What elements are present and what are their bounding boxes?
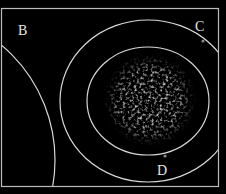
diagram-canvas <box>0 0 226 194</box>
label-c: C <box>195 20 204 34</box>
label-d: D <box>157 164 167 178</box>
label-b: B <box>18 24 27 38</box>
marker-c <box>201 39 204 42</box>
noise-cloud <box>100 50 200 150</box>
marker-d <box>163 154 166 157</box>
